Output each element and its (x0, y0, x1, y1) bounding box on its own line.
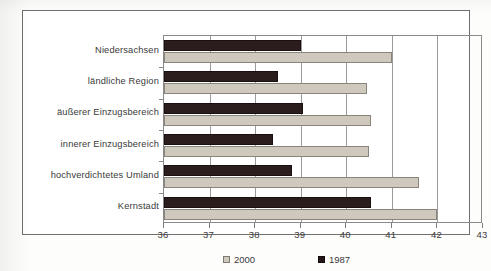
x-axis-tick-label-37: 37 (203, 229, 214, 240)
x-axis-tick-37 (209, 223, 210, 228)
chart-frame: Niedersachsenländliche Regionäußerer Ein… (22, 10, 470, 235)
y-axis-label-1: Niedersachsen (25, 45, 159, 55)
x-axis-tick-40 (345, 223, 346, 228)
legend-label-1987: 1987 (329, 254, 350, 265)
x-axis-tick-41 (391, 223, 392, 228)
x-axis-tick-38 (254, 223, 255, 228)
x-axis-tick-label-36: 36 (158, 229, 169, 240)
x-axis-tick-42 (436, 223, 437, 228)
y-axis-label-5: hochverdichtetes Umland (25, 170, 159, 180)
chart-legend: 20001987 (163, 254, 482, 268)
y-axis-label-2: ländliche Region (25, 76, 159, 86)
x-axis-tick-label-42: 42 (431, 229, 442, 240)
x-axis-tick-43 (482, 223, 483, 228)
x-axis-tick-label-40: 40 (340, 229, 351, 240)
x-axis-tick-label-38: 38 (249, 229, 260, 240)
y-axis-label-4: innerer Einzugsbereich (25, 139, 159, 149)
x-axis-tick-label-41: 41 (385, 229, 396, 240)
y-axis-label-6: Kernstadt (25, 201, 159, 211)
legend-item-1987[interactable]: 1987 (318, 254, 350, 265)
legend-label-2000: 2000 (234, 254, 255, 265)
y-axis-label-3: äußerer Einzugsbereich (25, 107, 159, 117)
x-axis-tick-36 (163, 223, 164, 228)
x-axis-tick-39 (300, 223, 301, 228)
x-axis-tick-label-39: 39 (294, 229, 305, 240)
legend-swatch-icon-1987 (318, 256, 325, 263)
x-axis-tick-label-43: 43 (477, 229, 488, 240)
y-axis-labels: Niedersachsenländliche Regionäußerer Ein… (23, 35, 491, 223)
legend-item-2000[interactable]: 2000 (223, 254, 255, 265)
chart-page: Niedersachsenländliche Regionäußerer Ein… (0, 0, 491, 271)
legend-swatch-icon-2000 (223, 256, 230, 263)
